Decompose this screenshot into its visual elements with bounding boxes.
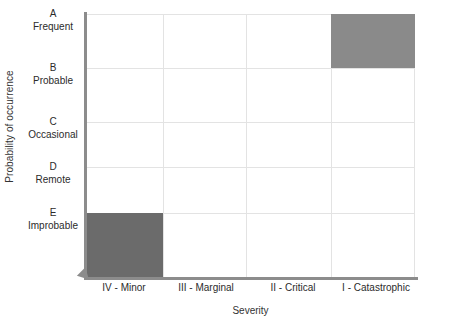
gridline-vertical — [246, 14, 247, 278]
gridline-horizontal — [86, 167, 415, 168]
y-tick-e-improbable: E Improbable — [22, 207, 84, 232]
y-tick-d-remote: D Remote — [22, 161, 84, 186]
y-tick-c-occasional: C Occasional — [22, 116, 84, 141]
y-tick-word: Probable — [22, 75, 84, 88]
x-axis-title: Severity — [86, 305, 415, 316]
y-tick-code: C — [22, 116, 84, 129]
plot-area — [86, 14, 415, 278]
y-axis-line — [84, 12, 87, 280]
x-axis-line — [84, 277, 418, 280]
y-tick-word: Occasional — [22, 129, 84, 142]
x-tick-iii-marginal: III - Marginal — [156, 282, 256, 293]
y-axis-title: Probability of occurrence — [0, 0, 18, 290]
y-tick-code: B — [22, 62, 84, 75]
y-tick-a-frequent: A Frequent — [22, 8, 84, 33]
risk-cell-minor-improbable — [86, 213, 163, 278]
risk-matrix-chart: Probability of occurrence A Frequent B P… — [0, 0, 462, 327]
gridline-horizontal — [86, 122, 415, 123]
y-tick-word: Frequent — [22, 21, 84, 34]
risk-cell-critical-frequent — [331, 14, 415, 68]
y-tick-b-probable: B Probable — [22, 62, 84, 87]
gridline-vertical — [163, 14, 164, 278]
y-tick-code: E — [22, 207, 84, 220]
x-tick-i-catastrophic: I - Catastrophic — [321, 282, 431, 293]
gridline-horizontal — [86, 68, 415, 69]
y-tick-code: D — [22, 161, 84, 174]
y-tick-word: Improbable — [22, 220, 84, 233]
y-axis-tick-labels: A Frequent B Probable C Occasional D Rem… — [20, 0, 84, 327]
x-axis-tick-labels: IV - Minor III - Marginal II - Critical … — [86, 282, 415, 298]
y-tick-word: Remote — [22, 174, 84, 187]
y-tick-code: A — [22, 8, 84, 21]
